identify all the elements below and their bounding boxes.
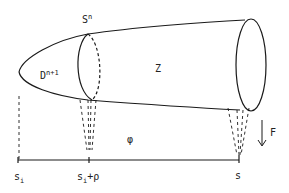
lower-boundary-curve: [19, 72, 240, 110]
right-cone-inner: [240, 110, 243, 155]
label-phi: φ: [127, 134, 133, 145]
label-region-z: Z: [155, 63, 161, 74]
cobordism-diagram: Sn Dn+1 Z φ F si si+ρ s: [0, 0, 289, 193]
parameter-axis: [18, 155, 239, 163]
middle-cone-inner: [90, 100, 91, 150]
right-cone-left: [228, 108, 237, 155]
projection-lines: [19, 96, 249, 160]
middle-cone-left: [80, 100, 87, 150]
middle-ellipse-back: [88, 34, 100, 100]
middle-cone-right: [92, 100, 96, 150]
label-s-i: si: [14, 171, 24, 185]
label-flow-f: F: [270, 127, 276, 138]
middle-ellipse-front: [78, 34, 92, 100]
right-cone-right: [241, 108, 249, 155]
label-s-i-plus-rho: si+ρ: [77, 171, 99, 185]
tube-body: [19, 20, 245, 110]
flow-arrow: [258, 120, 266, 146]
label-sphere: Sn: [82, 13, 92, 25]
right-cone-center: [237, 110, 239, 155]
label-disk: Dn+1: [40, 69, 59, 81]
label-s: s: [235, 170, 241, 181]
upper-boundary-curve: [19, 20, 245, 72]
right-end-ellipse: [236, 19, 266, 111]
middle-cone-center: [88, 100, 89, 150]
middle-cross-section: [78, 34, 100, 100]
